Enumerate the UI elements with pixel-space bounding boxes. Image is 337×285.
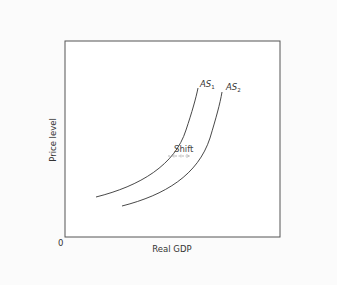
origin-label: 0 xyxy=(58,238,63,248)
aggregate-supply-chart: AS1 AS2 Shift Price level 0 Real GDP xyxy=(0,0,337,285)
shift-label: Shift xyxy=(174,144,194,154)
x-axis-label: Real GDP xyxy=(152,244,191,254)
y-axis-label: Price level xyxy=(48,118,58,162)
plot-frame xyxy=(65,41,280,237)
chart-canvas: AS1 AS2 Shift Price level 0 Real GDP xyxy=(0,0,337,285)
